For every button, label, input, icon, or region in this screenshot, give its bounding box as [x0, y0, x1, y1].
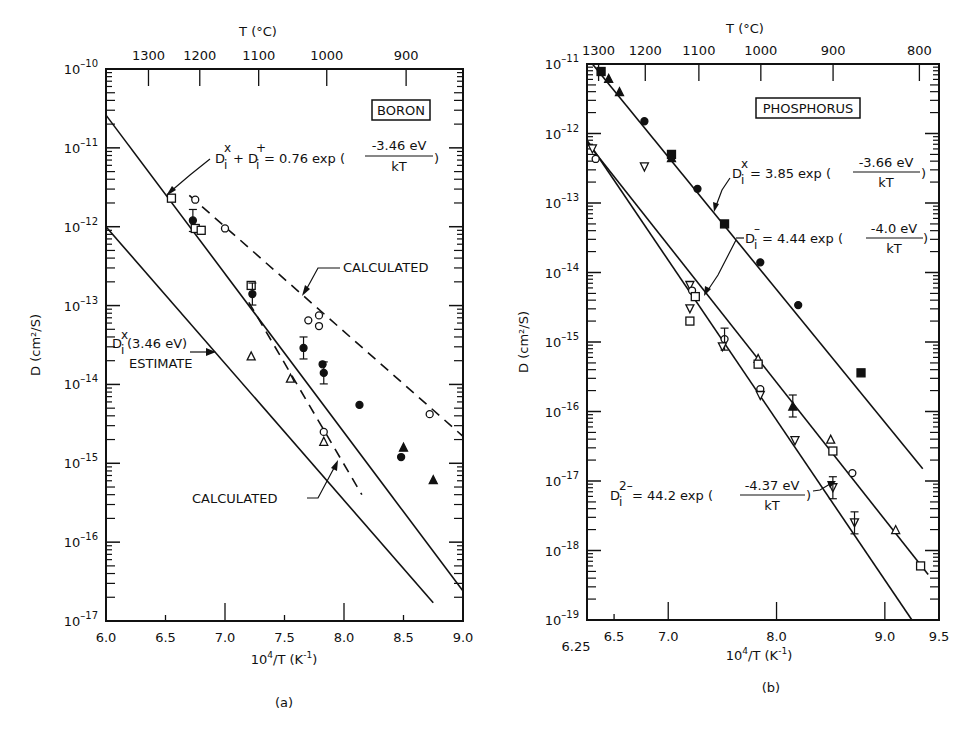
- data-points: [167, 194, 437, 483]
- y-tick-label: 10–13: [545, 192, 579, 211]
- data-point: [197, 226, 205, 234]
- data-point: [857, 369, 865, 377]
- top-tick-label: 800: [907, 43, 932, 58]
- data-point: [917, 562, 925, 570]
- fit-line: [592, 64, 922, 469]
- top-tick-label: 1100: [242, 48, 275, 63]
- equation-annotation: D x i + D + i = 0.76 exp ( -3.46 eV kT ): [166, 138, 439, 196]
- data-point: [691, 293, 699, 301]
- data-point: [829, 447, 837, 455]
- x-tick-label: 8.5: [393, 630, 414, 645]
- x-tick-label: 7.5: [274, 630, 295, 645]
- fit-line: [106, 227, 433, 603]
- y-axis-title: D (cm²/S): [516, 311, 531, 373]
- y-tick-label: 10–15: [64, 452, 98, 471]
- panel-caption: (b): [762, 680, 780, 695]
- data-point: [615, 88, 623, 96]
- data-point: [795, 302, 802, 309]
- y-tick-label: 10–16: [64, 531, 98, 550]
- panel-title: BORON: [377, 103, 425, 118]
- calculated-label-lower: CALCULATED: [192, 491, 277, 506]
- equation-di-2minus: D 2– i = 44.2 exp ( -4.37 eV kT ): [610, 478, 836, 513]
- x-tick-label: 6.5: [604, 629, 625, 644]
- y-tick-label: 10–18: [545, 540, 579, 559]
- top-tick-label: 900: [821, 43, 846, 58]
- data-point: [694, 185, 701, 192]
- data-point: [316, 323, 323, 330]
- axis-ticks: 10–1110–1210–1310–1410–1510–1610–1710–18…: [545, 43, 950, 644]
- data-point: [398, 454, 405, 461]
- fit-line: [249, 302, 362, 494]
- data-point: [641, 118, 648, 125]
- data-point: [597, 67, 605, 75]
- svg-text:): ): [923, 231, 928, 246]
- svg-text:i: i: [256, 158, 259, 172]
- svg-text:i: i: [741, 173, 744, 187]
- y-tick-label: 10–16: [545, 401, 579, 420]
- x-tick-label: 9.0: [453, 630, 474, 645]
- y-tick-label: 10–17: [545, 470, 579, 489]
- svg-text:i: i: [754, 238, 757, 252]
- svg-text:x: x: [224, 141, 231, 155]
- svg-text:= 44.2 exp (: = 44.2 exp (: [632, 488, 713, 503]
- svg-text:kT: kT: [886, 241, 902, 256]
- data-point: [592, 155, 599, 162]
- plot-frame: [587, 64, 939, 620]
- svg-text:= 4.44 exp (: = 4.44 exp (: [762, 231, 843, 246]
- eq-coefficient: = 0.76 exp (: [264, 151, 345, 166]
- y-tick-label: 10–17: [64, 610, 98, 629]
- eq-mid: + D: [233, 151, 258, 166]
- x-tick-label: 8.0: [334, 630, 355, 645]
- calculated-label-upper: CALCULATED: [343, 260, 428, 275]
- svg-text:): ): [921, 166, 926, 181]
- panel-b-phosphorus-chart: T (°C) 10–1110–1210–1310–1410–1510–1610–…: [516, 21, 949, 695]
- y-tick-label: 10–14: [545, 262, 579, 281]
- top-axis-title: T (°C): [725, 21, 764, 36]
- svg-text:–: –: [754, 222, 760, 236]
- y-tick-label: 10–10: [64, 58, 98, 77]
- data-point: [757, 259, 764, 266]
- data-point: [429, 476, 437, 484]
- panel-title: PHOSPHORUS: [763, 101, 854, 116]
- svg-text:): ): [806, 488, 811, 503]
- equation-di-x: D x i = 3.85 exp ( -3.66 eV kT ): [713, 155, 926, 212]
- top-tick-label: 1200: [629, 43, 662, 58]
- x-tick-label: 7.0: [215, 630, 236, 645]
- svg-text:i: i: [224, 158, 227, 172]
- data-point: [305, 317, 312, 324]
- top-tick-label: 1100: [682, 43, 715, 58]
- x-tick-label: 9.0: [875, 629, 896, 644]
- top-tick-label: 1300: [582, 43, 615, 58]
- y-tick-label: 10–12: [64, 216, 98, 235]
- data-point: [754, 360, 762, 368]
- equation-di-minus: D – i = 4.44 exp ( -4.0 eV kT ): [704, 221, 928, 296]
- data-point: [192, 196, 199, 203]
- data-point: [849, 470, 856, 477]
- data-point: [316, 312, 323, 319]
- y-tick-label: 10–15: [545, 331, 579, 350]
- x-tick-label: 9.5: [929, 629, 950, 644]
- data-point: [686, 305, 694, 313]
- x-tick-label: 6.0: [96, 630, 117, 645]
- svg-text:): ): [434, 151, 439, 166]
- data-point: [222, 225, 229, 232]
- svg-text:2–: 2–: [619, 479, 633, 493]
- x-axis-title: 104/T (K-1): [726, 646, 792, 663]
- data-point: [320, 428, 327, 435]
- svg-text:-4.37 eV: -4.37 eV: [745, 478, 800, 493]
- eq-denominator: kT: [391, 159, 407, 174]
- top-tick-label: 1000: [310, 48, 343, 63]
- estimate-label: ESTIMATE: [129, 356, 193, 371]
- top-tick-label: 1200: [183, 48, 216, 63]
- x-tick-label: 7.0: [658, 629, 679, 644]
- estimate-energy: (3.46 eV): [127, 336, 187, 351]
- data-point: [426, 411, 433, 418]
- data-point: [756, 391, 764, 399]
- data-point: [721, 220, 729, 228]
- top-tick-label: 1300: [132, 48, 165, 63]
- top-tick-label: 900: [394, 48, 419, 63]
- data-point: [320, 437, 328, 445]
- x-axis-title: 104/T (K-1): [251, 650, 317, 667]
- eq-numerator: -3.46 eV: [372, 138, 427, 153]
- panel-a-boron-chart: T (°C) 10–1010–1110–1210–1310–1410–1510–…: [28, 24, 473, 710]
